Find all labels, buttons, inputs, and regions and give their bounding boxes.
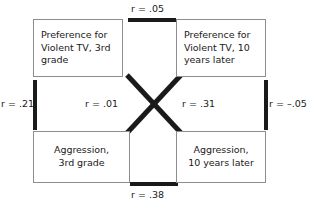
connector-bar-top: [128, 18, 176, 22]
cross-lagged-panel-diagram: Preference for Violent TV, 3rd grade Pre…: [0, 0, 310, 208]
box-preference-violent-tv-3rd-grade: Preference for Violent TV, 3rd grade: [33, 19, 123, 77]
correlation-label-top: r = .05: [131, 3, 164, 14]
box-text-line: 10 years later: [188, 157, 254, 170]
box-text-line: Aggression,: [194, 144, 249, 157]
box-text-line: 3rd grade: [58, 157, 104, 170]
connector-bar-right: [264, 80, 268, 130]
box-text-line: Violent TV, 10: [184, 42, 250, 55]
box-preference-violent-tv-10-years-later: Preference for Violent TV, 10 years late…: [176, 19, 266, 77]
connector-bar-bottom: [130, 182, 178, 186]
box-aggression-3rd-grade: Aggression, 3rd grade: [33, 131, 130, 183]
box-text-line: years later: [184, 54, 235, 67]
correlation-label-right: r = –.05: [269, 98, 307, 109]
box-text-line: Preference for: [184, 29, 250, 42]
diagonal-cross-connector: [123, 72, 185, 136]
correlation-label-left: r = .21: [1, 98, 34, 109]
box-text-line: Violent TV, 3rd: [41, 42, 110, 55]
correlation-label-bottom: r = .38: [131, 189, 164, 200]
box-text-line: Aggression,: [54, 144, 109, 157]
box-text-line: grade: [41, 54, 68, 67]
correlation-label-diagonal-right: r = .31: [182, 98, 215, 109]
correlation-label-diagonal-left: r = .01: [85, 98, 118, 109]
box-text-line: Preference for: [41, 29, 107, 42]
box-aggression-10-years-later: Aggression, 10 years later: [176, 131, 266, 183]
